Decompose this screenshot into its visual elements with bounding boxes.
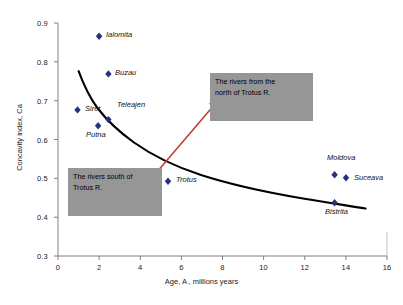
marker-buzau xyxy=(105,70,111,77)
x-tick-label-8: 16 xyxy=(377,263,397,272)
point-label-buzau: Buzau xyxy=(115,68,136,77)
y-tick-label-6: 0.3 xyxy=(26,252,48,261)
y-tick-marks xyxy=(54,23,58,256)
y-tick-label-5: 0.4 xyxy=(26,213,48,222)
x-axis-title: Age, A , millions years xyxy=(0,277,403,286)
x-tick-label-0: 0 xyxy=(48,263,68,272)
x-tick-label-3: 6 xyxy=(171,263,191,272)
marker-putna xyxy=(95,122,101,129)
x-tick-label-6: 12 xyxy=(295,263,315,272)
x-tick-label-2: 4 xyxy=(130,263,150,272)
x-tick-label-5: 10 xyxy=(254,263,274,272)
point-label-moldova: Moldova xyxy=(327,153,355,162)
point-label-trotus: Trotus xyxy=(176,175,197,184)
point-label-suceava: Suceava xyxy=(354,173,383,182)
point-label-bistrita: Bistrita xyxy=(325,207,348,216)
marker-trotus xyxy=(165,178,171,185)
x-tick-label-7: 14 xyxy=(336,263,356,272)
y-tick-label-1: 0.8 xyxy=(26,58,48,67)
marker-moldova xyxy=(331,171,337,178)
x-tick-label-1: 2 xyxy=(89,263,109,272)
chart-figure: 0.9 0.8 0.7 0.6 0.5 0.4 0.3 0 2 4 6 8 10… xyxy=(0,0,403,305)
annotation-box-south: The rivers south of Trotus R. xyxy=(68,168,162,216)
marker-ialomita xyxy=(96,33,102,40)
x-tick-label-4: 8 xyxy=(213,263,233,272)
point-label-teleajen: Teleajen xyxy=(117,100,145,109)
y-tick-label-0: 0.9 xyxy=(26,19,48,28)
marker-bistrita xyxy=(331,199,337,206)
marker-suceava xyxy=(343,174,349,181)
y-tick-label-3: 0.6 xyxy=(26,136,48,145)
y-tick-label-4: 0.5 xyxy=(26,174,48,183)
annotation-box-north: The rivers from the north of Trotus R. xyxy=(210,73,313,121)
y-axis-title: Concavity index, Ca xyxy=(15,78,24,198)
marker-siret xyxy=(74,106,80,113)
point-label-ialomita: Ialomita xyxy=(106,30,132,39)
x-tick-marks xyxy=(58,256,387,260)
point-label-putna: Putna xyxy=(86,130,106,139)
axis-lines xyxy=(58,23,387,256)
y-tick-label-2: 0.7 xyxy=(26,97,48,106)
point-label-siret: Siret xyxy=(85,104,100,113)
